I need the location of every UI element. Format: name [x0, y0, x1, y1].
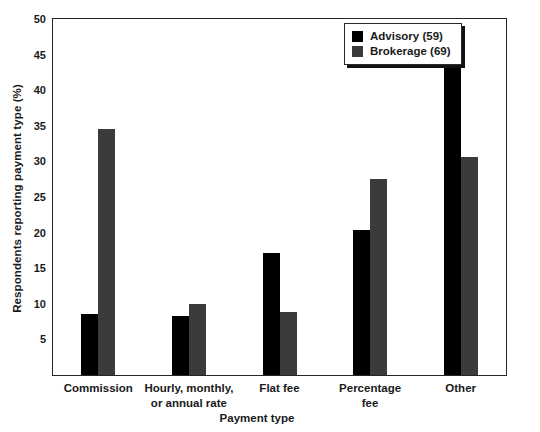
bar-advisory: [81, 314, 98, 375]
y-tick-label: 30: [24, 155, 46, 167]
legend-swatch-advisory: [352, 31, 363, 42]
bar-brokerage: [98, 129, 115, 375]
y-tick-label: 10: [24, 298, 46, 310]
bar-brokerage: [461, 157, 478, 375]
bars-layer: [53, 19, 506, 375]
legend-entry-advisory: Advisory (59): [352, 29, 451, 44]
y-tick-label: 35: [24, 120, 46, 132]
bar-advisory: [172, 316, 189, 375]
x-tick-label-line: or annual rate: [129, 396, 249, 411]
y-tick-label: 45: [24, 49, 46, 61]
bar-advisory: [353, 230, 370, 375]
y-tick-label: 5: [24, 333, 46, 345]
x-axis-title-text: Payment type: [220, 412, 295, 424]
bar-brokerage: [280, 312, 297, 375]
legend-entry-brokerage: Brokerage (69): [352, 44, 451, 59]
y-tick-label: 40: [24, 84, 46, 96]
legend-label-advisory: Advisory (59): [370, 30, 443, 43]
legend-label-brokerage: Brokerage (69): [370, 45, 451, 58]
bar-advisory: [263, 253, 280, 375]
x-tick-label-line: Other: [401, 381, 521, 396]
bar-chart-figure: Respondents reporting payment type (%) 5…: [0, 0, 540, 432]
y-axis-tick-labels: 5101520253035404550: [24, 0, 46, 432]
x-axis-title: Payment type: [0, 412, 540, 424]
x-tick-label-line: fee: [310, 396, 430, 411]
y-tick-label: 50: [24, 13, 46, 25]
y-tick-label: 20: [24, 227, 46, 239]
bar-brokerage: [370, 179, 387, 375]
legend: Advisory (59) Brokerage (69): [344, 23, 462, 65]
y-tick-label: 15: [24, 262, 46, 274]
bar-advisory: [444, 37, 461, 375]
y-tick-label: 25: [24, 191, 46, 203]
bar-brokerage: [189, 304, 206, 375]
x-tick-label: Other: [401, 381, 521, 396]
legend-swatch-brokerage: [352, 46, 363, 57]
